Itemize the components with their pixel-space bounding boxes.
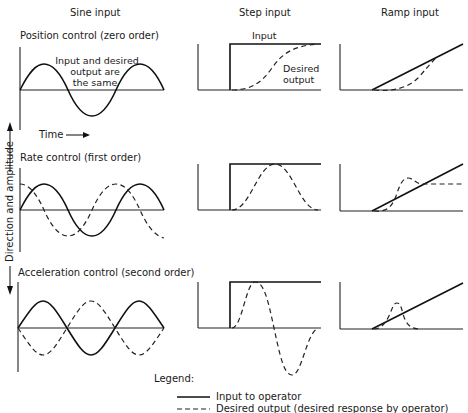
panel-position-step: Input Desired output [198,30,321,90]
y-axis-label-group: Direction and amplitude [4,122,15,295]
column-header-sine: Sine input [70,7,121,18]
input-ramp-line [372,44,463,90]
row-label-rate-control: Rate control (first order) [20,152,141,163]
arrow-right-icon [83,132,90,138]
column-header-step: Step input [239,7,291,18]
panel-position-sine: Input and desired output are the same [20,47,164,130]
annotation-desired-1: Desired [283,63,319,74]
row-label-position-control: Position control (zero order) [20,30,159,41]
input-ramp-line [372,164,463,211]
desired-output-pulse [232,164,318,210]
panel-acceleration-ramp [340,282,463,329]
panel-acceleration-step [198,282,321,375]
desired-output-curve [374,178,463,211]
row-label-acceleration-control: Acceleration control (second order) [18,267,195,278]
annotation-input: Input [252,30,277,41]
annotation-same-2: output are [70,66,120,77]
control-order-diagram: Sine input Step input Ramp input Positio… [0,0,468,413]
time-label: Time [38,129,63,140]
panel-acceleration-sine [18,282,164,372]
arrow-down-icon [7,286,13,295]
arrow-up-icon [7,122,13,131]
legend-item-input: Input to operator [216,391,302,402]
y-axis-label: Direction and amplitude [4,141,15,262]
legend-title: Legend: [154,373,194,384]
panel-position-ramp [340,44,463,91]
panel-rate-sine [20,168,164,252]
annotation-desired-2: output [283,74,315,85]
legend: Legend: Input to operator Desired output… [154,373,449,413]
input-step-line [230,164,321,210]
input-ramp-line [372,283,463,329]
legend-item-desired-output: Desired output (desired response by oper… [216,403,449,413]
desired-output-cosine-curve [20,184,164,238]
panel-rate-ramp [340,164,463,211]
column-header-ramp: Ramp input [381,7,439,18]
annotation-same-3: the same [73,77,118,88]
panel-rate-step [198,164,321,210]
annotation-same-1: Input and desired [55,55,139,66]
